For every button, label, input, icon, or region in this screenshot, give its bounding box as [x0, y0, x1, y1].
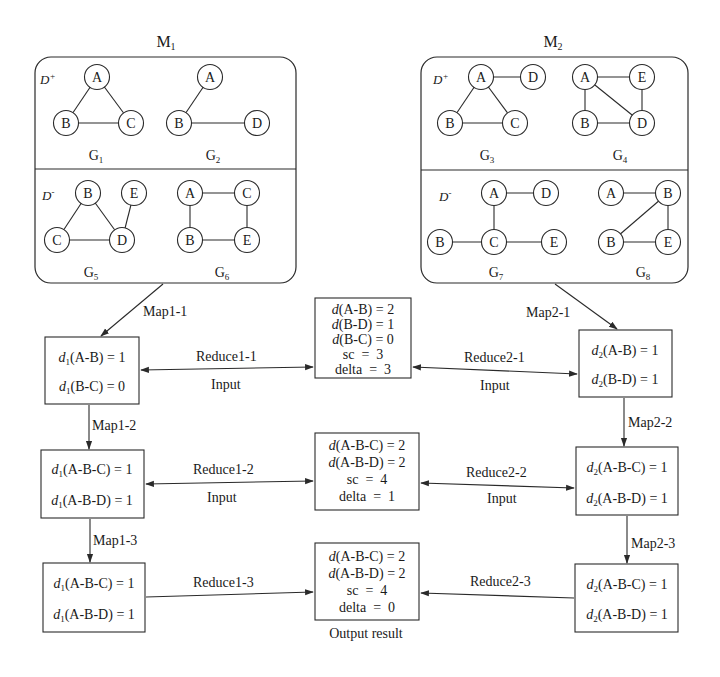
map2-result-box-3: d2(A-B-C) = 1 d2(A-B-D) = 1 [575, 564, 678, 632]
reduce1-3-label: Reduce1-3 [193, 575, 254, 590]
reduce2-3-label: Reduce2-3 [470, 574, 531, 589]
positive-set-label: D+ [39, 71, 55, 87]
graph-g6: A C B E G6 [178, 181, 260, 283]
svg-text:B: B [185, 233, 194, 248]
svg-text:d(A-B) = 2: d(A-B) = 2 [332, 302, 394, 318]
module-m1: M1 D+ D- A B C G1 A B D G2 [35, 33, 296, 283]
svg-text:sc = 4: sc = 4 [347, 583, 388, 598]
graph-node: E [630, 65, 655, 90]
module-title: M1 [156, 33, 175, 52]
map1-result-box-1: d1(A-B) = 1 d1(B-C) = 0 [45, 337, 139, 404]
map1-result-box-2: d1(A-B-C) = 1 d1(A-B-D) = 1 [41, 450, 144, 518]
svg-text:B: B [61, 116, 70, 131]
graph-node: B [599, 230, 624, 255]
svg-text:B: B [606, 235, 615, 250]
graph-g3: A D B C G3 [438, 65, 546, 166]
graph-node: E [235, 228, 260, 253]
svg-text:D: D [528, 70, 538, 85]
svg-text:delta = 0: delta = 0 [339, 600, 395, 615]
svg-text:d1(A-B-C) = 1: d1(A-B-C) = 1 [52, 462, 133, 479]
negative-set-label: D- [438, 188, 451, 204]
graph-node: D [534, 181, 559, 206]
svg-text:C: C [489, 235, 498, 250]
svg-text:D: D [117, 233, 127, 248]
svg-text:D: D [541, 186, 551, 201]
reduce2-1-arrow [413, 367, 577, 374]
graph-label: G5 [84, 265, 99, 282]
map2-result-box-1: d2(A-B) = 1 d2(B-D) = 1 [579, 330, 672, 397]
graph-label: G1 [89, 148, 104, 165]
graph-g8: A B B E G8 [599, 181, 681, 283]
input-label: Input [211, 377, 241, 392]
svg-text:E: E [638, 70, 647, 85]
svg-text:d2(A-B-D) = 1: d2(A-B-D) = 1 [586, 491, 668, 508]
svg-text:E: E [550, 235, 559, 250]
reduce2-2-arrow [421, 483, 574, 488]
svg-text:A: A [185, 186, 196, 201]
map2-1-label: Map2-1 [526, 305, 570, 320]
svg-text:A: A [92, 70, 103, 85]
graph-node: C [119, 111, 144, 136]
svg-text:B: B [580, 116, 589, 131]
reduce2-1-label: Reduce2-1 [464, 350, 525, 365]
graph-label: G2 [206, 148, 221, 165]
map1-result-box-3: d1(A-B-C) = 1 d1(A-B-D) = 1 [43, 563, 145, 632]
module-m2: M2 D+ D- A D B C G3 A E B D G4 [421, 33, 688, 283]
input-label: Input [207, 490, 237, 505]
graph-node: A [573, 65, 598, 90]
reduce-result-box-3: d(A-B-C) = 2 d(A-B-D) = 2 sc = 4 delta =… [315, 543, 419, 620]
reduce1-2-arrow [146, 481, 313, 484]
graph-node: A [482, 181, 507, 206]
svg-text:B: B [663, 186, 672, 201]
graph-label: G6 [215, 265, 230, 282]
graph-node: D [630, 111, 655, 136]
svg-text:sc = 4: sc = 4 [347, 472, 388, 487]
map2-3-label: Map2-3 [631, 536, 675, 551]
graph-label: G7 [489, 265, 504, 282]
graph-node: B [167, 111, 192, 136]
negative-set-label: D- [41, 187, 54, 203]
svg-text:d(B-C) = 0: d(B-C) = 0 [332, 332, 394, 348]
svg-text:d2(A-B-C) = 1: d2(A-B-C) = 1 [587, 577, 668, 594]
reduce1-1-label: Reduce1-1 [196, 349, 257, 364]
svg-text:delta = 3: delta = 3 [335, 362, 391, 377]
input-label: Input [480, 378, 510, 393]
reduce2-2-label: Reduce2-2 [466, 465, 527, 480]
graph-label: G3 [480, 148, 495, 165]
svg-text:C: C [126, 116, 135, 131]
reduce-result-box-2: d(A-B-C) = 2 d(A-B-D) = 2 sc = 4 delta =… [315, 433, 419, 510]
graph-node: A [198, 65, 223, 90]
graph-node: C [235, 181, 260, 206]
mapreduce-subgraph-diagram: M1 D+ D- A B C G1 A B D G2 [0, 0, 720, 677]
output-result-label: Output result [329, 626, 403, 641]
reduce1-3-arrow [146, 592, 313, 597]
reduce1-1-arrow [141, 367, 313, 370]
svg-text:d1(A-B-D) = 1: d1(A-B-D) = 1 [51, 493, 133, 510]
graph-node: B [438, 111, 463, 136]
graph-g1: A B C G1 [54, 65, 144, 166]
svg-text:D: D [637, 116, 647, 131]
svg-text:delta = 1: delta = 1 [339, 489, 395, 504]
svg-text:A: A [476, 70, 487, 85]
svg-text:E: E [130, 186, 139, 201]
graph-node: D [521, 65, 546, 90]
svg-text:C: C [242, 186, 251, 201]
graph-node: E [122, 181, 147, 206]
svg-text:d(B-D) = 1: d(B-D) = 1 [332, 317, 394, 333]
reduce-result-box-1: d(A-B) = 2 d(B-D) = 1 d(B-C) = 0 sc = 3 … [315, 298, 411, 378]
graph-node: C [482, 230, 507, 255]
graph-node: B [178, 228, 203, 253]
graph-node: B [76, 181, 101, 206]
graph-node: E [656, 230, 681, 255]
svg-text:d1(A-B-D) = 1: d1(A-B-D) = 1 [53, 607, 135, 624]
map2-result-box-2: d2(A-B-C) = 1 d2(A-B-D) = 1 [576, 447, 678, 515]
svg-text:A: A [606, 186, 617, 201]
graph-node: B [428, 230, 453, 255]
graph-node: A [178, 181, 203, 206]
graph-g5: B E C D G5 [45, 181, 147, 283]
svg-text:d(A-B-C) = 2: d(A-B-C) = 2 [329, 549, 405, 565]
graph-label: G4 [613, 148, 628, 165]
svg-text:d(A-B-D) = 2: d(A-B-D) = 2 [328, 566, 405, 582]
svg-text:B: B [445, 116, 454, 131]
svg-text:A: A [580, 70, 591, 85]
